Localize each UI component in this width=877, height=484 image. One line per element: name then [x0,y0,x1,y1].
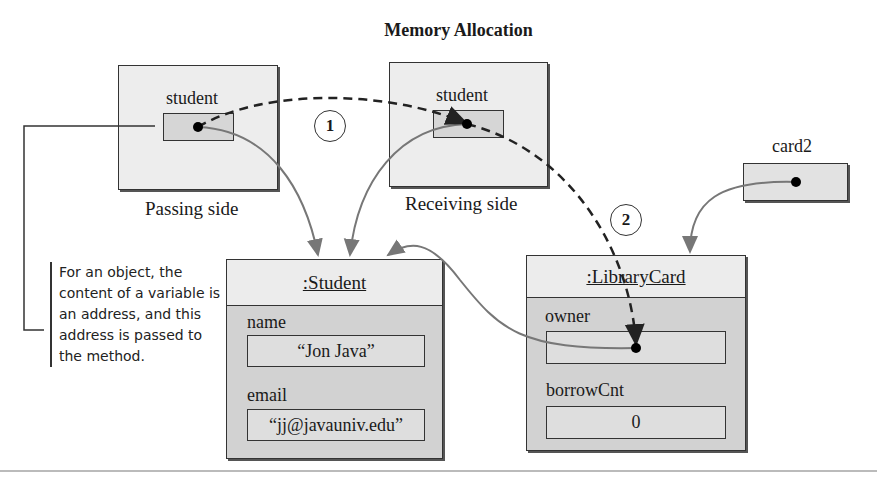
note-bracket-line [24,126,155,330]
card2-reference-dot [791,177,801,187]
owner-to-student-arrow [388,246,636,348]
step-2-dashed-arrow [467,124,636,344]
arrows-layer [0,0,877,484]
receiving-reference-dot [462,119,472,129]
owner-reference-dot [631,343,641,353]
bottom-divider [0,470,877,472]
step-1-dashed-arrow [198,98,466,127]
card2-to-librarycard-arrow [690,182,796,252]
passing-to-student-arrow [198,127,318,255]
receiving-to-student-arrow [350,124,467,255]
passing-reference-dot [193,122,203,132]
